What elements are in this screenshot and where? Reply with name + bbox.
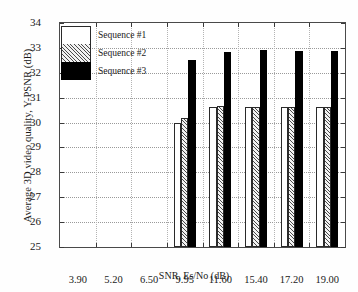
y-tick-label: 30 [1,117,41,128]
y-tick-mark [341,147,345,148]
x-tick-mark [274,243,275,247]
y-tick-mark [341,23,345,24]
legend-swatch-sequence-1 [61,26,91,44]
y-tick-label: 27 [1,191,41,202]
y-tick-label: 28 [1,166,41,177]
bar-19-00-series-2 [324,107,331,247]
y-tick-label: 33 [1,42,41,53]
bar-11-60-series-2 [217,106,224,247]
legend-swatch-sequence-3 [61,62,91,80]
y-tick-mark [341,123,345,124]
y-tick-mark [60,172,64,173]
bar-17-20-series-2 [288,107,295,247]
bar-19-00-series-3 [331,51,338,247]
y-tick-mark [60,197,64,198]
legend-label-sequence-2: Sequence #2 [98,48,146,58]
x-tick-mark [131,243,132,247]
y-tick-mark [341,222,345,223]
y-tick-mark [60,147,64,148]
x-tick-mark [238,243,239,247]
bar-15-40-series-1 [245,107,252,247]
legend-label-sequence-3: Sequence #3 [98,66,146,76]
bar-17-20-series-1 [281,107,288,247]
legend-item-sequence-1: Sequence #1 [61,26,221,44]
y-tick-label: 31 [1,92,41,103]
x-axis-title: SNR, Es/No (dB) [42,270,346,281]
legend-label-sequence-1: Sequence #1 [98,30,146,40]
y-tick-mark [60,98,64,99]
bar-9-95-series-2 [181,118,188,247]
bar-17-20-series-3 [295,51,302,247]
y-tick-label: 29 [1,141,41,152]
bar-9-95-series-1 [174,123,181,247]
x-tick-mark [309,23,310,27]
bar-15-40-series-2 [252,107,259,247]
x-tick-mark [96,243,97,247]
y-tick-mark [341,48,345,49]
y-tick-label: 25 [1,241,41,252]
x-gridline [274,23,275,247]
bar-19-00-series-1 [316,107,323,247]
bar-15-40-series-3 [260,50,267,247]
chart-legend: Sequence #1 Sequence #2 Sequence #3 [61,24,221,82]
x-tick-mark [238,23,239,27]
y-tick-mark [60,247,64,248]
y-tick-mark [341,73,345,74]
y-tick-label: 32 [1,67,41,78]
x-gridline [238,23,239,247]
y-tick-mark [60,222,64,223]
y-tick-mark [341,197,345,198]
x-gridline [309,23,310,247]
x-tick-mark [274,23,275,27]
legend-swatch-sequence-2 [61,44,91,62]
figure-canvas: Average 3D video quality, Y-PSNR (dB) 25… [0,0,358,292]
y-tick-label: 26 [1,216,41,227]
legend-item-sequence-2: Sequence #2 [61,44,221,62]
bar-9-95-series-3 [188,60,195,247]
bar-11-60-series-1 [209,107,216,247]
y-tick-mark [60,123,64,124]
y-tick-mark [341,247,345,248]
y-tick-label: 34 [1,17,41,28]
y-tick-mark [341,98,345,99]
bar-11-60-series-3 [224,52,231,247]
y-tick-mark [341,172,345,173]
x-tick-mark [167,243,168,247]
legend-item-sequence-3: Sequence #3 [61,62,221,80]
x-tick-mark [203,243,204,247]
x-tick-mark [309,243,310,247]
